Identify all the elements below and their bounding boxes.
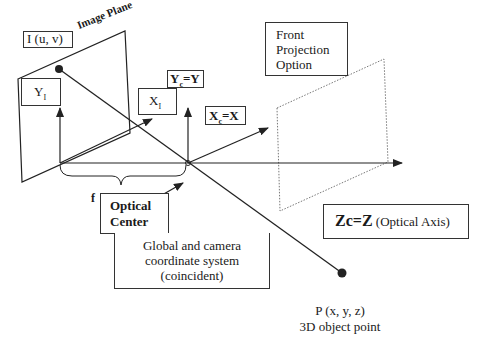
yc-label: Yc=Y	[167, 70, 204, 88]
image-point-dot	[55, 65, 63, 73]
yi-label: YI	[21, 78, 61, 106]
diagram-canvas	[0, 0, 481, 348]
optical-center-label: Optical Center	[100, 193, 169, 234]
front-projection-label: Front Projection Option	[265, 22, 348, 76]
focal-length-brace	[60, 165, 186, 185]
xc-label: Xc=X	[205, 106, 246, 125]
image-point-label: I (u, v)	[23, 31, 73, 48]
xc-axis	[188, 128, 268, 163]
xi-label: XI	[138, 88, 177, 115]
focal-length-label: f	[91, 191, 95, 205]
object-point-label: P (x, y, z) 3D object point	[270, 303, 410, 335]
optical-axis-label: Zc=Z (Optical Axis)	[323, 204, 469, 239]
coord-system-label: Global and camera coordinate system (coi…	[114, 233, 270, 289]
object-point-dot	[338, 269, 347, 278]
image-plane	[18, 31, 130, 182]
front-projection-plane	[277, 59, 388, 211]
